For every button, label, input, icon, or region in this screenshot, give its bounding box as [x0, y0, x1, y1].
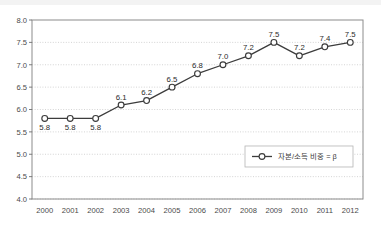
- data-point-label: 5.8: [39, 123, 50, 132]
- data-point-label: 7.0: [218, 52, 230, 61]
- series-data-point: [246, 53, 252, 59]
- data-point-label: 6.1: [116, 93, 127, 102]
- data-point-label: 6.5: [167, 75, 179, 84]
- x-axis-tick-label: 2007: [215, 206, 232, 215]
- series-data-point: [42, 116, 48, 122]
- data-point-label: 7.2: [243, 43, 254, 52]
- x-axis-tick-label: 2006: [189, 206, 206, 215]
- series-data-point: [93, 116, 99, 122]
- legend-marker-swatch: [259, 154, 265, 160]
- y-axis-tick-label: 6.0: [16, 105, 27, 114]
- data-point-label: 6.2: [141, 88, 152, 97]
- x-axis-tick-label: 2009: [265, 206, 282, 215]
- y-axis-tick-label: 6.5: [16, 83, 27, 92]
- y-axis-tick-label: 7.5: [16, 38, 27, 47]
- data-point-label: 7.5: [345, 30, 357, 39]
- y-axis-tick-label: 7.0: [16, 61, 27, 70]
- chart-legend: 자본/소득 비중 = β: [245, 146, 353, 167]
- y-axis: 8.07.57.06.56.05.55.04.54.0: [16, 16, 32, 204]
- x-axis-tick-label: 2004: [138, 206, 155, 215]
- line-chart: 8.07.57.06.56.05.55.04.54.0 200020012002…: [0, 0, 381, 229]
- x-axis-tick-label: 2008: [240, 206, 257, 215]
- x-axis-tick-label: 2003: [113, 206, 130, 215]
- x-axis: 2000200120022003200420052006200720082009…: [36, 206, 358, 215]
- series-data-point: [271, 39, 277, 45]
- series-data-point: [67, 116, 73, 122]
- x-axis-tick-label: 2011: [317, 206, 333, 215]
- chart-canvas: 8.07.57.06.56.05.55.04.54.0 200020012002…: [0, 0, 381, 229]
- series-data-point: [296, 53, 302, 59]
- series-data-point: [347, 39, 353, 45]
- x-axis-tick-label: 2002: [87, 206, 104, 215]
- x-axis-tick-label: 2000: [36, 206, 53, 215]
- x-axis-tick-label: 2005: [164, 206, 181, 215]
- series-data-point: [118, 102, 124, 108]
- series-data-point: [220, 62, 226, 68]
- data-point-label: 7.4: [319, 34, 331, 43]
- series-data-point: [322, 44, 328, 50]
- data-point-label: 6.8: [192, 61, 203, 70]
- y-axis-tick-label: 4.5: [16, 172, 27, 181]
- x-axis-tick-label: 2010: [291, 206, 308, 215]
- data-point-label: 7.2: [294, 43, 305, 52]
- x-axis-tick-label: 2012: [342, 206, 359, 215]
- data-point-label: 5.8: [90, 123, 101, 132]
- x-axis-tick-label: 2001: [62, 206, 79, 215]
- series-data-point: [144, 98, 150, 104]
- y-axis-tick-label: 5.5: [16, 128, 27, 137]
- y-axis-tick-label: 5.0: [16, 150, 27, 159]
- y-axis-tick-label: 8.0: [16, 16, 27, 25]
- series-data-point: [169, 84, 175, 90]
- data-point-label: 5.8: [65, 123, 76, 132]
- y-axis-tick-label: 4.0: [16, 195, 27, 204]
- series-data-point: [195, 71, 201, 77]
- data-point-label: 7.5: [268, 30, 280, 39]
- legend-entry-label: 자본/소득 비중 = β: [278, 152, 337, 161]
